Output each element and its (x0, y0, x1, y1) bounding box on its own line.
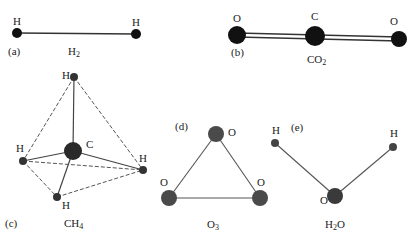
hydrogen-atom (53, 193, 61, 201)
formula-o3: O3 (207, 218, 219, 232)
tetrahedron-edge (74, 77, 143, 170)
formula-co2: CO2 (307, 53, 326, 67)
panel-tag-b: (b) (231, 46, 244, 59)
atom-label-o: O (160, 176, 168, 188)
hydrogen-atom (131, 29, 141, 39)
atom-label-h: H (16, 142, 24, 154)
hydrogen-atom (139, 166, 147, 174)
oxygen-atom (208, 126, 224, 142)
atom-label-h: H (390, 127, 398, 139)
hydrogen-atom (70, 73, 78, 81)
atom-label-h: H (272, 124, 280, 136)
o-o-bond (169, 134, 216, 198)
panel-co2: O C O (b) CO2 (228, 10, 407, 67)
formula-h2o: H2O (325, 218, 345, 232)
panel-h2: H H (a) H2 (8, 15, 141, 59)
tetrahedron-edge (57, 170, 143, 197)
atom-label-c: C (311, 10, 318, 22)
formula-h2: H2 (68, 45, 80, 59)
carbon-atom (64, 142, 82, 160)
panel-tag-a: (a) (8, 45, 21, 58)
oxygen-atom (228, 26, 246, 44)
oxygen-atom (327, 188, 343, 204)
formula-ch4: CH4 (64, 217, 83, 231)
panel-h2o: H O H (e) H2O (271, 121, 398, 232)
o-h-bond (275, 143, 335, 196)
atom-label-h: H (139, 152, 147, 164)
panel-tag-d: (d) (175, 120, 188, 133)
atom-label-h: H (62, 199, 70, 211)
oxygen-atom (252, 190, 268, 206)
atom-label-h: H (132, 16, 140, 28)
panel-tag-c: (c) (5, 217, 18, 230)
panel-o3: O O O (d) O3 (160, 120, 268, 232)
carbon-atom (305, 26, 325, 46)
atom-label-o: O (390, 15, 398, 27)
h-h-bond (17, 33, 136, 34)
hydrogen-atom (12, 28, 22, 38)
o-o-bond (216, 134, 260, 198)
atom-label-o: O (257, 176, 265, 188)
hydrogen-atom (389, 143, 397, 151)
hydrogen-atom (19, 157, 27, 165)
tetrahedron-edge (23, 161, 57, 197)
o-h-bond (335, 147, 393, 196)
oxygen-atom (391, 31, 407, 47)
c-h-bond (73, 77, 74, 151)
atom-label-h: H (62, 69, 70, 81)
atom-label-c: C (86, 138, 93, 150)
atom-label-o: O (320, 194, 328, 206)
atom-label-h: H (13, 15, 21, 27)
atom-label-o: O (233, 12, 241, 24)
panel-tag-e: (e) (291, 121, 304, 134)
oxygen-atom (161, 190, 177, 206)
panel-ch4: H C H H H (c) CH4 (5, 69, 147, 231)
molecular-structures-diagram: H H (a) H2 O C O (b) CO2 (0, 0, 410, 239)
hydrogen-atom (271, 139, 279, 147)
atom-label-o: O (228, 126, 236, 138)
